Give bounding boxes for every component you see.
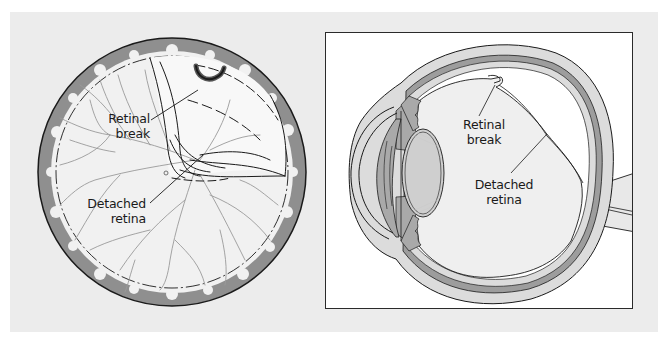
label-text: Retinal	[90, 111, 150, 126]
label-text: break	[90, 126, 150, 141]
label-retinal-break: Retinal break	[90, 111, 150, 141]
eye-cross-section-illustration	[326, 33, 633, 309]
label-text: retina	[472, 192, 536, 207]
label-text: Retinal	[459, 117, 509, 132]
label-retinal-break: Retinal break	[459, 117, 509, 147]
fundus-illustration	[0, 0, 334, 340]
label-text: retina	[80, 211, 146, 226]
fundus-panel: Retinal break Detached retina	[0, 0, 334, 340]
label-detached-retina: Detached retina	[80, 196, 146, 226]
label-text: Detached	[472, 177, 536, 192]
label-text: Detached	[80, 196, 146, 211]
label-detached-retina: Detached retina	[472, 177, 536, 207]
label-text: break	[459, 132, 509, 147]
cross-section-panel: Retinal break Detached retina	[325, 32, 633, 309]
